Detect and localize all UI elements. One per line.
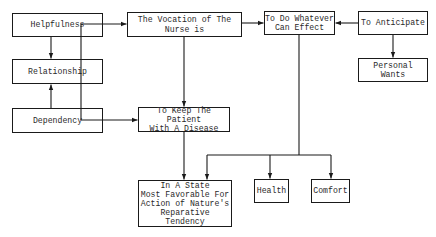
node-label: Health: [257, 186, 286, 195]
node-label: To Anticipate: [361, 18, 425, 27]
node-keep-patient: To Keep The Patient With A Disease: [138, 107, 230, 132]
node-dependency: Dependency: [12, 108, 103, 133]
node-label: Personal Wants: [373, 61, 412, 79]
node-label: Comfort: [313, 186, 347, 195]
node-relationship: Relationship: [12, 59, 103, 84]
node-label: Helpfulness: [30, 20, 84, 29]
node-anticipate: To Anticipate: [358, 11, 428, 35]
node-label: The Vocation of The Nurse is: [138, 15, 231, 33]
nursing-concept-diagram: Helpfulness Relationship Dependency The …: [0, 0, 436, 237]
node-label: Dependency: [33, 116, 82, 125]
node-vocation: The Vocation of The Nurse is: [127, 12, 242, 37]
node-whatever: To Do Whatever Can Effect: [264, 11, 335, 35]
node-comfort: Comfort: [311, 179, 350, 203]
node-label: To Do Whatever Can Effect: [265, 14, 334, 32]
node-health: Health: [254, 179, 289, 203]
node-helpfulness: Helpfulness: [12, 13, 103, 37]
node-label: In A State Most Favorable For Action of …: [139, 181, 231, 227]
node-state: In A State Most Favorable For Action of …: [138, 180, 232, 227]
node-personal-wants: Personal Wants: [358, 58, 428, 82]
node-label: To Keep The Patient With A Disease: [139, 106, 229, 134]
node-label: Relationship: [28, 67, 87, 76]
